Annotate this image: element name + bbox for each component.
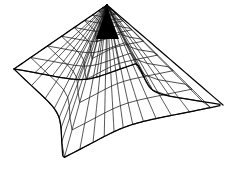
figure-root [0, 0, 227, 169]
wireframe-canvas [0, 0, 227, 169]
